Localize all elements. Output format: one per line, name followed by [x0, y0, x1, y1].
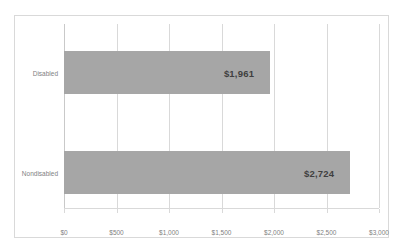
bar-row: $1,961 — [64, 51, 379, 94]
tick-mark-2500 — [327, 209, 328, 213]
bar-value-label: $1,961 — [224, 67, 254, 78]
category-label-nondisabled: Nondisabled — [22, 169, 58, 176]
gridline-3000 — [379, 24, 380, 208]
x-tick-label: $0 — [60, 229, 67, 236]
x-tick-label: $3,000 — [369, 229, 389, 236]
x-tick-label: $1,500 — [212, 229, 232, 236]
tick-mark-1000 — [169, 209, 170, 213]
x-tick-label: $2,500 — [317, 229, 337, 236]
category-label-disabled: Disabled — [33, 69, 58, 76]
tick-mark-500 — [117, 209, 118, 213]
chart-frame: $0$500$1,000$1,500$2,000$2,500$3,000 $1,… — [14, 15, 389, 238]
bar-row: $2,724 — [64, 151, 379, 194]
tick-mark-3000 — [379, 209, 380, 213]
x-tick-label: $500 — [109, 229, 123, 236]
tick-mark-0 — [64, 209, 65, 213]
tick-mark-2000 — [274, 209, 275, 213]
bar-value-label: $2,724 — [304, 167, 334, 178]
x-tick-label: $1,000 — [159, 229, 179, 236]
tick-mark-1500 — [222, 209, 223, 213]
x-tick-label: $2,000 — [264, 229, 284, 236]
